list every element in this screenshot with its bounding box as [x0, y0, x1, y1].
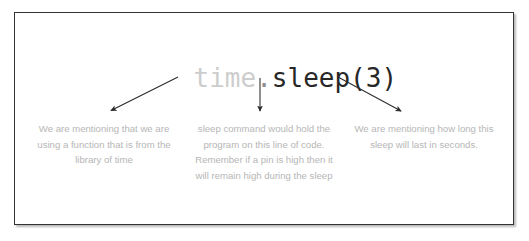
- caption-library: We are mentioning that we are using a fu…: [27, 121, 181, 168]
- code-title: time.sleep(3): [15, 33, 513, 123]
- code-token-dot: .: [256, 63, 272, 93]
- caption-duration: We are mentioning how long this sleep wi…: [347, 121, 501, 152]
- caption-sleep-behavior: sleep command would hold the program on …: [181, 121, 347, 183]
- code-token-module: time: [194, 63, 257, 93]
- code-token-call: sleep(3): [272, 63, 397, 93]
- caption-row: We are mentioning that we are using a fu…: [15, 121, 513, 183]
- annotation-card: time.sleep(3) We are mentioning that we …: [14, 12, 514, 225]
